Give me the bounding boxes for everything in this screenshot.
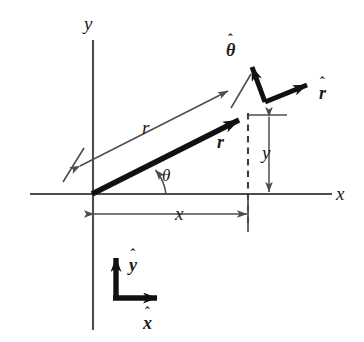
dimension-y-label: y (262, 143, 270, 162)
dimension-x-label: x (175, 204, 183, 223)
position-vector-label: r (217, 133, 224, 151)
r-hat-label: ˆr (319, 84, 326, 102)
dimension-x (93, 196, 248, 232)
polar-coordinates-diagram: x y r x y θ r ˆr ˆθ ˆy ˆx (0, 0, 364, 342)
diagram-canvas (0, 0, 364, 342)
axis-lines (30, 40, 332, 330)
y-hat-label: ˆy (129, 256, 137, 274)
dimension-r-line (80, 91, 228, 166)
dimension-r-tick-end (231, 74, 251, 108)
y-hat-caret: ˆ (130, 247, 135, 261)
angle-theta-label: θ (162, 167, 170, 184)
theta-hat-vector (252, 67, 265, 102)
unit-vectors-polar (252, 67, 307, 102)
theta-hat-label: ˆθ (226, 41, 235, 59)
r-hat-caret: ˆ (320, 75, 325, 89)
y-axis-label: y (84, 14, 92, 33)
dimension-r-label: r (142, 118, 149, 137)
x-hat-caret: ˆ (145, 305, 150, 319)
x-hat-label: ˆx (143, 314, 152, 332)
theta-hat-caret: ˆ (228, 32, 233, 46)
r-hat-vector (265, 85, 307, 102)
x-axis-label: x (336, 184, 344, 203)
